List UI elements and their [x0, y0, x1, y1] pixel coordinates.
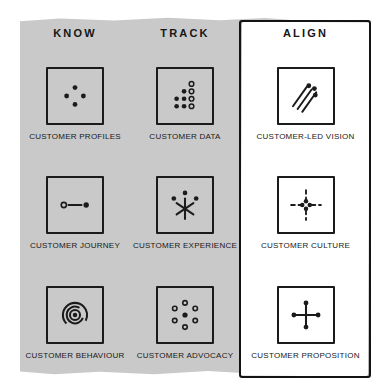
cell-label: CUSTOMER ADVOCACY [137, 351, 234, 360]
capability-grid: KNOW TRACK ALIGN CUSTOMER PROFILES [20, 17, 371, 378]
diagonal-motion-trails-icon [277, 67, 335, 125]
cell-customer-experience[interactable]: CUSTOMER EXPERIENCE [130, 159, 240, 269]
cell-customer-led-vision[interactable]: CUSTOMER-LED VISION [240, 49, 371, 159]
cell-label: CUSTOMER BEHAVIOUR [26, 351, 125, 360]
cross-with-end-dots-icon [277, 286, 335, 344]
cell-label: CUSTOMER JOURNEY [30, 241, 120, 250]
cell-customer-data[interactable]: CUSTOMER DATA [130, 49, 240, 159]
asterisk-burst-with-dots-icon [156, 176, 214, 234]
cell-label: CUSTOMER CULTURE [261, 241, 350, 250]
cell-customer-behaviour[interactable]: CUSTOMER BEHAVIOUR [20, 268, 130, 378]
infographic-canvas: KNOW TRACK ALIGN CUSTOMER PROFILES [0, 0, 379, 391]
cell-label: CUSTOMER PROPOSITION [251, 351, 359, 360]
cell-customer-journey[interactable]: CUSTOMER JOURNEY [20, 159, 130, 269]
cell-customer-culture[interactable]: CUSTOMER CULTURE [240, 159, 371, 269]
cell-label: CUSTOMER DATA [149, 132, 220, 141]
cell-customer-advocacy[interactable]: CUSTOMER ADVOCACY [130, 268, 240, 378]
four-dots-diamond-icon [46, 67, 104, 125]
cell-label: CUSTOMER EXPERIENCE [133, 241, 237, 250]
cell-label: CUSTOMER PROFILES [29, 132, 121, 141]
cell-customer-proposition[interactable]: CUSTOMER PROPOSITION [240, 268, 371, 378]
ring-of-hollow-dots-icon [156, 286, 214, 344]
cell-label: CUSTOMER-LED VISION [257, 132, 355, 141]
column-header-know: KNOW [20, 17, 130, 49]
hollow-dot-line-filled-dot-icon [46, 176, 104, 234]
dashed-cross-dot-cluster-icon [277, 176, 335, 234]
cell-customer-profiles[interactable]: CUSTOMER PROFILES [20, 49, 130, 159]
dot-staircase-icon [156, 67, 214, 125]
column-header-track: TRACK [130, 17, 240, 49]
column-header-align: ALIGN [240, 17, 371, 49]
concentric-target-rings-icon [46, 286, 104, 344]
